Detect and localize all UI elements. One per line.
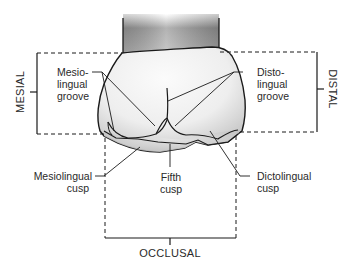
distolingual-groove-line-2: lingual xyxy=(257,78,289,90)
mesial-label: MESIAL xyxy=(14,70,26,114)
mesiolingual-cusp-label: Mesiolingual cusp xyxy=(30,170,92,194)
distolingual-groove-line-3: groove xyxy=(257,90,289,102)
distolingual-cusp-label: Dictolingual cusp xyxy=(257,170,311,194)
distolingual-groove-label: Disto- lingual groove xyxy=(257,66,289,102)
mesiolingual-cusp-line-1: Mesiolingual xyxy=(30,170,92,182)
mesiolingual-groove-line-3: groove xyxy=(57,90,89,102)
distolingual-cusp-line-1: Dictolingual xyxy=(257,170,311,182)
fifth-cusp-line-2: cusp xyxy=(156,183,186,195)
fifth-cusp-line-1: Fifth xyxy=(156,171,186,183)
fifth-cusp-label: Fifth cusp xyxy=(156,171,186,195)
mesiolingual-groove-line-1: Mesio- xyxy=(57,66,89,78)
distolingual-cusp-line-2: cusp xyxy=(257,182,311,194)
mesiolingual-cusp-line-2: cusp xyxy=(30,182,92,194)
distolingual-groove-line-1: Disto- xyxy=(257,66,289,78)
mesiolingual-groove-line-2: lingual xyxy=(57,78,89,90)
occlusal-label: OCCLUSAL xyxy=(134,247,206,259)
mesiolingual-groove-label: Mesio- lingual groove xyxy=(57,66,89,102)
tooth-diagram xyxy=(0,0,354,271)
distal-label: DISTAL xyxy=(327,67,339,111)
